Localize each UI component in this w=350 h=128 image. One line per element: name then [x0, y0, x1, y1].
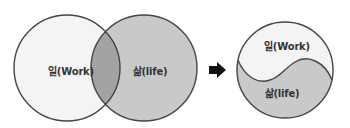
yin-yang-life-label: 삶(life) [265, 85, 300, 100]
venn-life-label: 삶(life) [133, 63, 168, 78]
arrow-right-icon [209, 62, 226, 78]
work-life-diagram: 일(Work) 삶(life) 일(Work) 삶(life) [0, 0, 350, 128]
venn-work-label: 일(Work) [48, 63, 94, 78]
yin-yang-work-label: 일(Work) [264, 38, 310, 53]
